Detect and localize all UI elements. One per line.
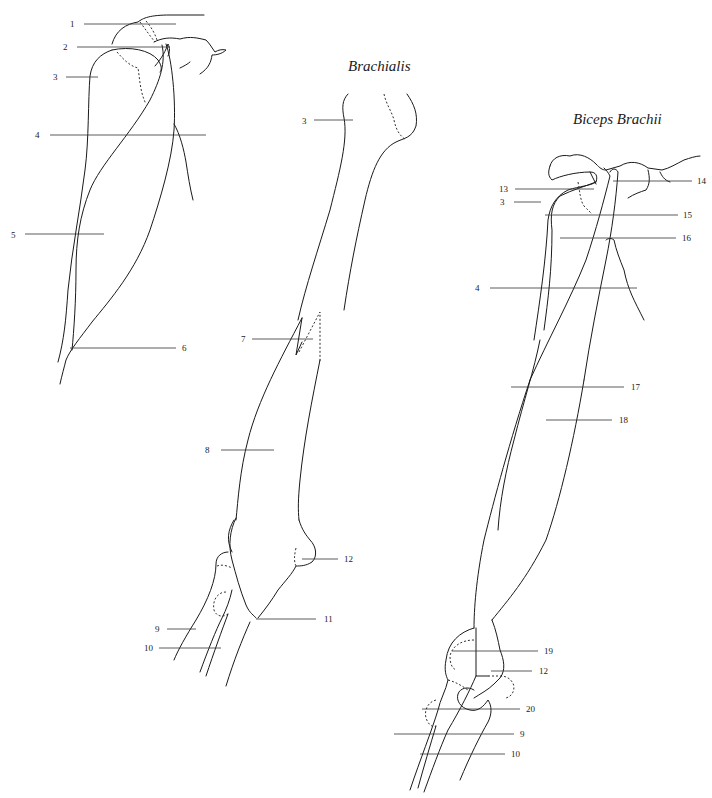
label-number: 4 (475, 283, 480, 293)
title-brachialis: Brachialis (348, 58, 411, 74)
coracoid-line (180, 62, 190, 68)
label-number: 16 (682, 233, 692, 243)
label-number: 14 (697, 176, 707, 186)
capitulum-dashed (488, 676, 514, 698)
label-number: 10 (511, 749, 521, 759)
acromion-outline (112, 15, 204, 44)
label-number: 1 (70, 19, 75, 29)
label-number: 9 (520, 729, 525, 739)
medial-epicondyle-outline (258, 520, 316, 618)
label-number: 5 (11, 230, 16, 240)
brachialis-insertion-left (230, 518, 256, 618)
figure-shoulder-arm (58, 15, 226, 384)
medial-epicondyle-dashed (295, 548, 297, 566)
anatomy-diagram: Brachialis Biceps Brachii (0, 0, 712, 798)
label-number: 9 (155, 624, 160, 634)
label-number: 17 (631, 382, 641, 392)
lateral-condyle-dashed (450, 640, 474, 670)
short-head-right-outline (584, 169, 618, 380)
humerus-left-outline (298, 94, 348, 320)
label-number: 20 (526, 704, 536, 714)
biceps-tendon-left (476, 628, 488, 676)
brachialis-left-outline (236, 318, 302, 520)
humeral-head-top (112, 48, 161, 72)
label-number: 8 (205, 445, 210, 455)
figure-brachialis (174, 94, 417, 686)
label-number: 11 (324, 614, 333, 624)
labels-brachialis: 3 7 8 9 10 11 12 (144, 116, 353, 653)
label-number: 13 (499, 184, 509, 194)
humeral-head-dashed (117, 52, 146, 104)
deltoid-front-outline (72, 45, 163, 350)
label-number: 12 (344, 554, 353, 564)
label-number: 6 (182, 343, 187, 353)
deltoid-back-outline (60, 44, 175, 384)
biceps-right-outline (492, 380, 584, 620)
scapula-top-outline (550, 155, 700, 170)
brachialis-edge (498, 340, 540, 530)
radial-head-dashed (217, 565, 232, 568)
label-number: 4 (35, 130, 40, 140)
label-number: 12 (539, 666, 548, 676)
label-number: 15 (683, 210, 693, 220)
label-number: 10 (144, 643, 154, 653)
humerus-right-outline (344, 94, 417, 310)
radius-inner-left (200, 590, 232, 672)
figure-biceps-brachii (410, 155, 700, 792)
label-number: 2 (63, 42, 68, 52)
radial-tuberosity-dashed (214, 592, 228, 616)
scapula-outline (154, 37, 226, 74)
humeral-head-dashed (384, 94, 406, 140)
radius-outline (174, 552, 228, 660)
radius-inner (418, 726, 436, 788)
label-number: 3 (53, 72, 58, 82)
medial-epicondyle-outline (474, 620, 504, 698)
labels-biceps-brachii: 13 3 14 15 16 4 17 18 19 12 20 9 10 (394, 176, 707, 759)
pectoral-edge (606, 239, 644, 321)
label-number: 7 (241, 334, 246, 344)
long-head-tendon-outer (534, 166, 597, 340)
acromion-edge (628, 170, 649, 198)
brachialis-right-outline (298, 360, 320, 520)
short-head-left-outline (530, 168, 610, 380)
labels-figure-1: 1 2 3 4 5 6 (11, 19, 206, 353)
biceps-left-outline (474, 380, 530, 628)
radius-inner-right (206, 614, 228, 676)
long-head-tendon-inner (544, 182, 596, 330)
label-number: 3 (500, 197, 505, 207)
label-number: 18 (619, 415, 629, 425)
label-number: 19 (544, 646, 554, 656)
clavicle-edge (660, 172, 670, 182)
title-biceps-brachii: Biceps Brachii (573, 111, 662, 127)
ulna-outline (226, 622, 250, 686)
label-number: 3 (302, 116, 307, 126)
